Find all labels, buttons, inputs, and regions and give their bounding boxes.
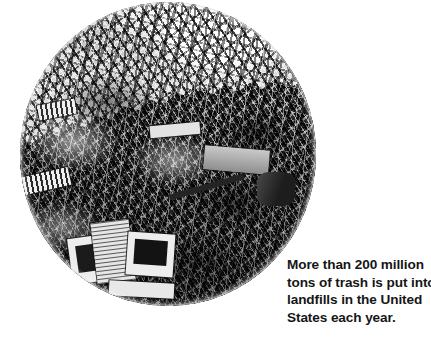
discarded-panel-slab xyxy=(108,280,174,299)
caption-line-1: More than 200 million xyxy=(287,256,431,274)
debris-drum xyxy=(257,172,295,205)
landfill-photo-figure xyxy=(20,2,316,306)
photo-caption: More than 200 million tons of trash is p… xyxy=(287,256,431,326)
landfill-photo xyxy=(20,2,316,306)
caption-line-4: States each year. xyxy=(287,309,431,327)
caption-line-2: tons of trash is put into xyxy=(287,274,431,292)
discarded-monitor-right xyxy=(125,231,175,277)
caption-line-3: landfills in the United xyxy=(287,291,431,309)
